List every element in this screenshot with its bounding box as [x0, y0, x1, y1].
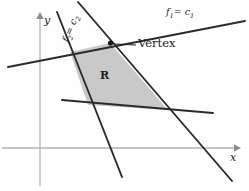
x-axis-label: x — [230, 152, 236, 163]
constraint-label-f1-eq: = c — [174, 6, 190, 17]
figure-canvas — [0, 0, 249, 191]
y-axis-arrowhead — [36, 12, 44, 19]
constraint-line-f1 — [8, 21, 245, 67]
y-axis-label: y — [44, 15, 50, 26]
vertex-marker-dot — [108, 40, 113, 45]
constraint-label-f1-eq-sub: 1 — [190, 12, 194, 20]
region-label-r: R — [100, 70, 109, 81]
constraint-label-f1: f1= c1 — [166, 7, 194, 19]
feasible-region-figure: y x R Vertex f1= c1 f2= c2 — [0, 0, 249, 191]
vertex-label: Vertex — [138, 38, 175, 50]
